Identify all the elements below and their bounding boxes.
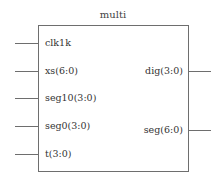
input-pin-xs[interactable] — [15, 71, 38, 72]
output-pin-dig[interactable] — [188, 71, 211, 72]
input-label-xs: xs(6:0) — [45, 65, 78, 77]
schematic-canvas: multi clk1k xs(6:0) seg10(3:0) seg0(3:0)… — [0, 0, 220, 186]
output-label-seg: seg(6:0) — [144, 124, 183, 136]
input-label-seg0: seg0(3:0) — [45, 120, 90, 132]
input-label-clk1k: clk1k — [45, 37, 71, 49]
input-label-seg10: seg10(3:0) — [45, 92, 96, 104]
input-label-t: t(3:0) — [45, 148, 72, 160]
component-title: multi — [38, 9, 188, 20]
input-pin-seg10[interactable] — [15, 98, 38, 99]
input-pin-clk1k[interactable] — [15, 43, 38, 44]
output-pin-seg[interactable] — [188, 130, 211, 131]
input-pin-t[interactable] — [15, 154, 38, 155]
input-pin-seg0[interactable] — [15, 126, 38, 127]
output-label-dig: dig(3:0) — [145, 65, 183, 77]
